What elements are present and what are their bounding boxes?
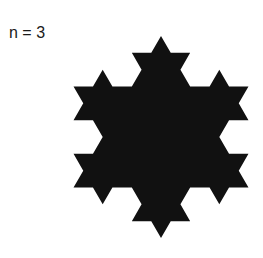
koch-snowflake-shape <box>74 36 249 238</box>
koch-snowflake-figure <box>0 0 263 258</box>
